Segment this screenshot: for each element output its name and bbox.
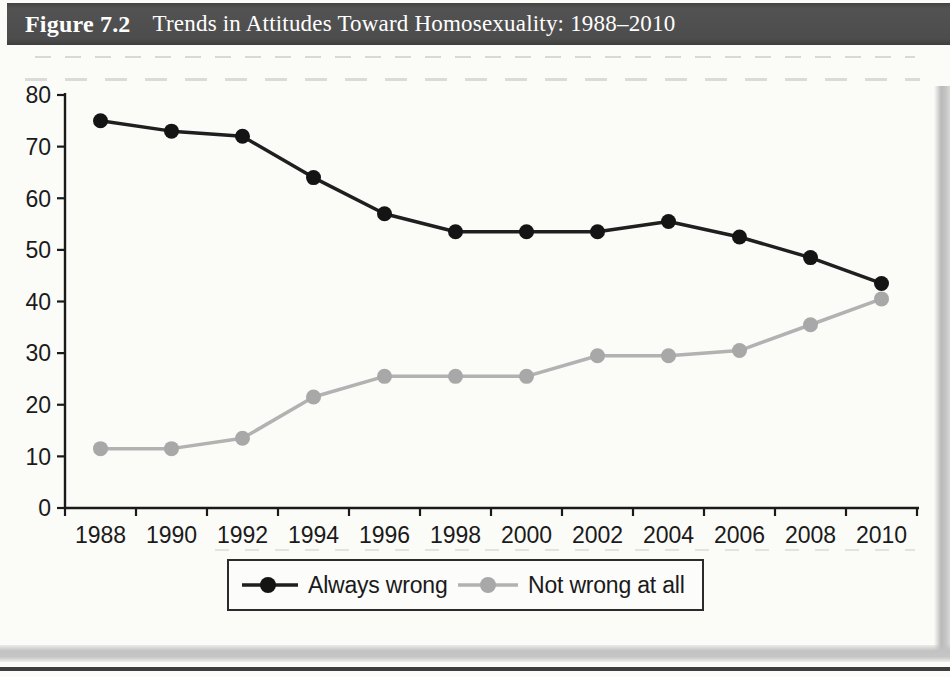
x-axis-tick-label: 1994 — [288, 522, 339, 548]
legend-marker-dot-0 — [260, 577, 276, 593]
data-point-0-2008 — [803, 250, 818, 265]
data-point-0-2006 — [732, 229, 747, 244]
data-point-0-1994 — [306, 170, 321, 185]
data-point-0-2004 — [661, 214, 676, 229]
x-axis-tick-label: 1988 — [75, 522, 126, 548]
data-point-1-1996 — [377, 369, 392, 384]
x-axis-tick-label: 2000 — [501, 522, 552, 548]
x-axis-tick-label: 1992 — [217, 522, 268, 548]
data-point-1-1992 — [235, 431, 250, 446]
x-axis-tick-label: 2006 — [714, 522, 765, 548]
series-line-0 — [101, 121, 882, 284]
y-axis-tick-label: 20 — [25, 392, 51, 418]
data-point-1-2002 — [590, 348, 605, 363]
y-axis-tick-label: 80 — [25, 82, 51, 108]
data-point-0-1996 — [377, 206, 392, 221]
legend-label-0: Always wrong — [308, 572, 448, 598]
data-point-1-1994 — [306, 390, 321, 405]
y-axis-tick-label: 0 — [38, 495, 51, 521]
data-point-0-1988 — [93, 113, 108, 128]
x-axis-tick-label: 2010 — [856, 522, 907, 548]
data-point-1-2004 — [661, 348, 676, 363]
data-point-0-2010 — [874, 276, 889, 291]
data-point-0-2002 — [590, 224, 605, 239]
x-axis-tick-label: 2002 — [572, 522, 623, 548]
data-point-0-1990 — [164, 124, 179, 139]
line-chart: 0102030405060708019881990199219941996199… — [0, 0, 950, 660]
data-point-0-1998 — [448, 224, 463, 239]
legend-marker-dot-1 — [480, 577, 496, 593]
data-point-1-2000 — [519, 369, 534, 384]
y-axis-tick-label: 50 — [25, 237, 51, 263]
x-axis-tick-label: 1996 — [359, 522, 410, 548]
data-point-1-2008 — [803, 317, 818, 332]
data-point-1-2010 — [874, 291, 889, 306]
x-axis-tick-label: 2004 — [643, 522, 694, 548]
y-axis-tick-label: 60 — [25, 186, 51, 212]
data-point-1-1990 — [164, 441, 179, 456]
x-axis-tick-label: 2008 — [785, 522, 836, 548]
data-point-1-1988 — [93, 441, 108, 456]
x-axis-tick-label: 1998 — [430, 522, 481, 548]
y-axis-tick-label: 30 — [25, 340, 51, 366]
legend: Always wrongNot wrong at all — [228, 560, 703, 610]
x-axis-tick-label: 1990 — [146, 522, 197, 548]
legend-label-1: Not wrong at all — [528, 572, 685, 598]
data-point-1-2006 — [732, 343, 747, 358]
y-axis-tick-label: 40 — [25, 289, 51, 315]
page-rule-line — [0, 667, 950, 671]
series-line-1 — [101, 299, 882, 449]
data-point-1-1998 — [448, 369, 463, 384]
y-axis-tick-label: 10 — [25, 444, 51, 470]
y-axis-tick-label: 70 — [25, 134, 51, 160]
data-point-0-1992 — [235, 129, 250, 144]
data-point-0-2000 — [519, 224, 534, 239]
